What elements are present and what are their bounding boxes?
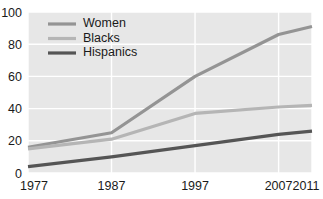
x-axis-tick-label: 1987 xyxy=(98,179,126,193)
y-axis-tick-label: 100 xyxy=(1,6,22,20)
x-axis-tick-labels: 19771987199720072011 xyxy=(20,179,319,193)
legend-label-hispanics: Hispanics xyxy=(83,45,137,59)
line-chart: 020406080100 19771987199720072011 WomenB… xyxy=(0,0,323,199)
y-axis-tick-label: 80 xyxy=(8,38,22,52)
legend-label-women: Women xyxy=(83,16,126,30)
y-axis-tick-label: 20 xyxy=(8,134,22,148)
x-axis-tick-label: 2007 xyxy=(265,179,293,193)
x-axis-tick-label: 1977 xyxy=(20,179,48,193)
y-axis-tick-labels: 020406080100 xyxy=(1,6,22,181)
legend-label-blacks: Blacks xyxy=(83,31,120,45)
x-axis-tick-label: 1997 xyxy=(181,179,209,193)
y-axis-tick-label: 40 xyxy=(8,102,22,116)
chart-canvas: 020406080100 19771987199720072011 WomenB… xyxy=(0,0,323,199)
x-axis-tick-label: 2011 xyxy=(293,179,320,193)
y-axis-tick-label: 60 xyxy=(8,70,22,84)
